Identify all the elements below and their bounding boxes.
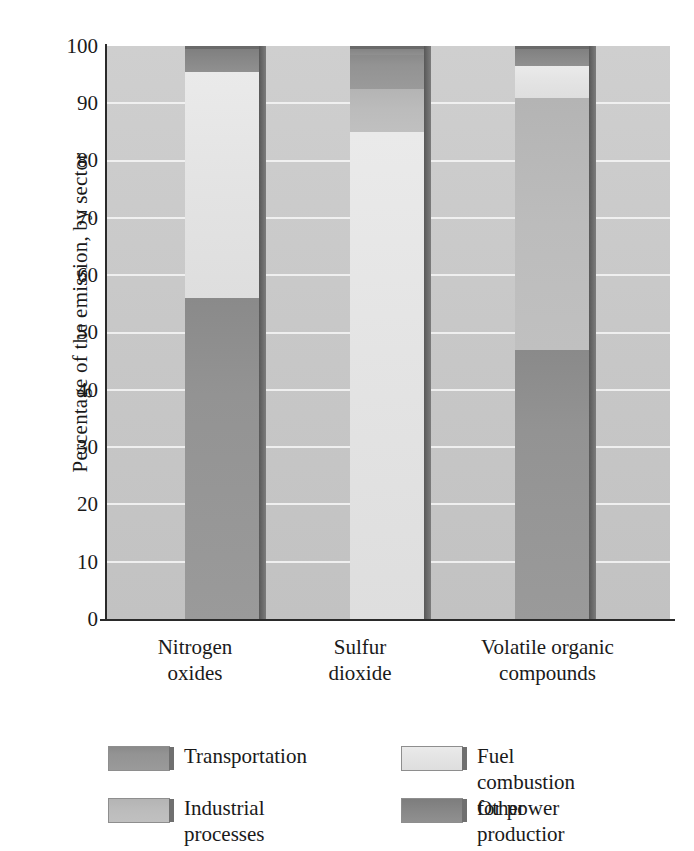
- segment-other: [515, 46, 589, 66]
- y-axis-line: [105, 44, 107, 621]
- legend-swatch-industrial-processes: [108, 798, 170, 823]
- stacked-bar-chart: Percentage of the emission, by sector 10…: [0, 0, 694, 851]
- y-tick-50: 50: [36, 322, 98, 343]
- legend-swatch-side: [462, 799, 467, 822]
- y-tick-60: 60: [36, 265, 98, 286]
- segment-fuel-combustion: [185, 72, 259, 298]
- segment-industrial-processes: [350, 89, 424, 132]
- x-label-line2: oxides: [120, 660, 270, 686]
- legend: Transportation Fuel combustion for power…: [108, 744, 688, 844]
- segment-fuel-combustion: [350, 132, 424, 619]
- legend-swatch-side: [169, 747, 174, 770]
- legend-swatch-side: [169, 799, 174, 822]
- segment-transportation: [350, 55, 424, 89]
- segment-transportation: [515, 350, 589, 619]
- bar-top-cap: [350, 46, 424, 49]
- legend-swatch-side: [462, 747, 467, 770]
- y-tick-70: 70: [36, 208, 98, 229]
- bar-top-cap: [185, 46, 259, 49]
- x-label-line1: Volatile organic: [440, 634, 655, 660]
- y-tick-10: 10: [36, 552, 98, 573]
- legend-label-other: Other: [477, 795, 525, 821]
- legend-label-transportation: Transportation: [184, 743, 307, 769]
- y-tick-90: 90: [36, 93, 98, 114]
- segment-other: [185, 46, 259, 72]
- x-label-line1: Sulfur: [290, 634, 430, 660]
- x-label-line2: dioxide: [290, 660, 430, 686]
- plot-area: [105, 46, 670, 619]
- bar-top-cap: [515, 46, 589, 49]
- x-label-volatile-organic-compounds: Volatile organic compounds: [440, 634, 655, 686]
- y-tick-40: 40: [36, 380, 98, 401]
- x-label-nitrogen-oxides: Nitrogen oxides: [120, 634, 270, 686]
- legend-swatch-fuel-combustion: [401, 746, 463, 771]
- bar-side-face: [424, 46, 431, 619]
- x-label-line1: Nitrogen: [120, 634, 270, 660]
- bar-side-face: [589, 46, 596, 619]
- segment-fuel-combustion: [515, 66, 589, 98]
- x-axis-line: [100, 619, 675, 621]
- y-tick-30: 30: [36, 437, 98, 458]
- y-tick-100: 100: [36, 36, 98, 57]
- y-tick-80: 80: [36, 150, 98, 171]
- y-tick-20: 20: [36, 494, 98, 515]
- segment-industrial-processes: [515, 98, 589, 350]
- segment-other: [350, 46, 424, 55]
- bar-side-face: [259, 46, 266, 619]
- x-label-line2: compounds: [440, 660, 655, 686]
- legend-label-industrial-processes: Industrial processes: [184, 795, 264, 847]
- x-label-sulfur-dioxide: Sulfur dioxide: [290, 634, 430, 686]
- legend-swatch-other: [401, 798, 463, 823]
- segment-transportation: [185, 298, 259, 619]
- y-axis-tick-labels: 100 90 80 70 60 50 40 30 20 10 0: [30, 0, 98, 851]
- y-tick-0: 0: [36, 609, 98, 630]
- legend-swatch-transportation: [108, 746, 170, 771]
